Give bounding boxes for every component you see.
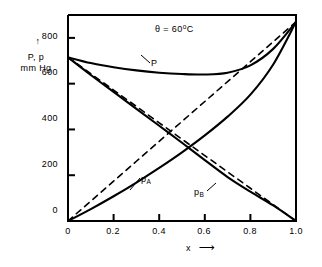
x-axis-ticks <box>68 214 296 221</box>
x-tick-label-0: 0 <box>54 226 82 236</box>
y-tick-label-0: 0 <box>20 205 58 215</box>
y-axis-label-line1: P, p <box>8 52 64 63</box>
celsius-symbol: C <box>187 24 194 34</box>
x-tick-label-0-2: 0.2 <box>99 226 127 236</box>
x-tick-label-0-4: 0.4 <box>145 226 173 236</box>
x-tick-label-0-8: 0.8 <box>236 226 264 236</box>
x-tick-label-1-0: 1.0 <box>282 226 310 236</box>
curve-label-pa-subscript: A <box>146 178 151 185</box>
y-tick-label-600: 600 <box>20 67 58 77</box>
y-axis-ticks <box>68 38 75 221</box>
curve-label-total-pressure: P <box>151 58 157 68</box>
y-tick-label-200: 200 <box>20 159 58 169</box>
curve-label-partial-pressure-b: pB <box>194 187 204 198</box>
y-tick-label-400: 400 <box>20 113 58 123</box>
vapour-pressure-chart: ↑ P, p mm Hg 800 600 400 200 0 0 0.2 0.4… <box>0 0 322 267</box>
y-tick-label-800: 800 <box>20 31 58 41</box>
curve-label-partial-pressure-a: pA <box>141 174 151 185</box>
temperature-annotation-text: θ = 60 <box>155 24 183 34</box>
x-axis-arrow: ⟶ <box>199 241 215 254</box>
x-tick-label-0-6: 0.6 <box>190 226 218 236</box>
x-axis-label: x <box>186 243 191 253</box>
curve-label-pb-subscript: B <box>199 191 204 198</box>
data-curves <box>68 22 296 221</box>
temperature-annotation: θ = 60oC <box>155 23 194 34</box>
curve-Raoult_A <box>68 22 296 221</box>
